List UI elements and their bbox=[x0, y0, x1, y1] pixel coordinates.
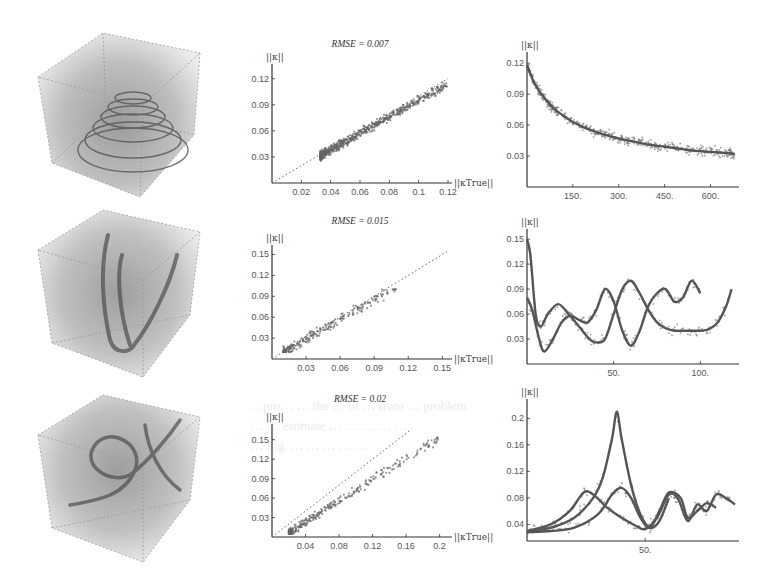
x-tick-label: 0.03 bbox=[297, 363, 315, 373]
x-tick-label: 50. bbox=[639, 545, 652, 555]
y-tick-label: 0.12 bbox=[251, 454, 269, 464]
volume-render-tangled-curve bbox=[30, 205, 210, 385]
x-tick-label: 0.15 bbox=[434, 363, 452, 373]
y-tick-label: 0.06 bbox=[251, 493, 269, 503]
x-axis-label: ||κTrue|| bbox=[454, 178, 493, 189]
x-tick-label: 0.04 bbox=[297, 541, 315, 551]
line-plot-2: 50.100.0.030.060.090.120.15||κ|| bbox=[500, 195, 766, 385]
y-axis-label: ||κ|| bbox=[521, 217, 539, 228]
sample-points bbox=[533, 487, 730, 532]
chart-title: RMSE = 0.007 bbox=[331, 39, 390, 49]
x-tick-label: 0.16 bbox=[397, 541, 415, 551]
scatter-points bbox=[320, 81, 448, 161]
y-tick-label: 0.15 bbox=[251, 435, 269, 445]
y-tick-label: 0.09 bbox=[251, 291, 269, 301]
y-tick-label: 0.03 bbox=[251, 513, 269, 523]
x-tick-label: 0.08 bbox=[330, 541, 348, 551]
y-tick-label: 0.12 bbox=[251, 270, 269, 280]
y-axis-label: ||κ|| bbox=[521, 387, 539, 398]
scatter-points bbox=[288, 436, 439, 534]
y-tick-label: 0.15 bbox=[251, 249, 269, 259]
y-tick-label: 0.03 bbox=[251, 333, 269, 343]
scatter-plot-1: 0.020.040.060.080.10.120.030.060.090.12|… bbox=[230, 0, 500, 195]
y-tick-label: 0.08 bbox=[506, 493, 524, 503]
x-tick-label: 0.06 bbox=[331, 363, 349, 373]
x-axis-label: ||κTrue|| bbox=[454, 354, 493, 365]
volume-render-knotted-curve bbox=[30, 390, 210, 570]
y-tick-label: 0.09 bbox=[506, 284, 524, 294]
chart-svg: 0.020.040.060.080.10.120.030.060.090.12|… bbox=[230, 0, 500, 195]
y-tick-label: 0.06 bbox=[506, 120, 524, 130]
y-tick-label: 0.09 bbox=[251, 474, 269, 484]
chart-svg: 0.040.080.120.160.20.030.060.090.120.15|… bbox=[230, 380, 500, 588]
line-plot-1: 150.300.450.600.0.030.060.090.12||κ|| bbox=[500, 0, 766, 195]
chart-svg: 50.100.0.030.060.090.120.15||κ|| bbox=[500, 195, 766, 385]
y-axis-label: ||κ|| bbox=[266, 233, 284, 244]
x-tick-label: 0.12 bbox=[364, 541, 382, 551]
chart-svg: 50.0.040.080.120.160.2||κ|| bbox=[500, 380, 766, 588]
x-tick-label: 100. bbox=[692, 368, 710, 378]
y-tick-label: 0.03 bbox=[506, 151, 524, 161]
y-tick-label: 0.12 bbox=[506, 466, 524, 476]
chart-title: RMSE = 0.015 bbox=[331, 216, 389, 226]
y-axis-label: ||κ|| bbox=[266, 52, 284, 63]
volume-render-helix-cone bbox=[30, 25, 210, 205]
line-plot-3: 50.0.040.080.120.160.2||κ|| bbox=[500, 380, 766, 588]
y-tick-label: 0.03 bbox=[506, 334, 524, 344]
y-tick-label: 0.03 bbox=[251, 152, 269, 162]
chart-svg: 0.030.060.090.120.150.030.060.090.120.15… bbox=[230, 195, 500, 385]
y-tick-label: 0.04 bbox=[506, 519, 524, 529]
y-axis-label: ||κ|| bbox=[266, 412, 284, 423]
y-tick-label: 0.12 bbox=[506, 259, 524, 269]
chart-svg: 150.300.450.600.0.030.060.090.12||κ|| bbox=[500, 0, 766, 195]
sample-points bbox=[530, 415, 669, 533]
y-tick-label: 0.16 bbox=[506, 440, 524, 450]
x-tick-label: 0.09 bbox=[365, 363, 383, 373]
x-axis-label: ||κTrue|| bbox=[454, 532, 493, 543]
y-axis-label: ||κ|| bbox=[521, 40, 539, 51]
scatter-points bbox=[282, 288, 396, 353]
y-tick-label: 0.12 bbox=[506, 58, 524, 68]
scatter-plot-3: 0.040.080.120.160.20.030.060.090.120.15|… bbox=[230, 380, 500, 588]
curve-fit bbox=[527, 65, 735, 154]
x-tick-label: 0.2 bbox=[433, 541, 446, 551]
y-tick-label: 0.12 bbox=[251, 74, 269, 84]
y-tick-label: 0.06 bbox=[251, 312, 269, 322]
y-tick-label: 0.2 bbox=[511, 413, 524, 423]
chart-title: RMSE = 0.02 bbox=[333, 394, 386, 404]
x-tick-label: 50. bbox=[607, 368, 620, 378]
scatter-plot-2: 0.030.060.090.120.150.030.060.090.120.15… bbox=[230, 195, 500, 385]
y-tick-label: 0.15 bbox=[506, 234, 524, 244]
x-tick-label: 0.12 bbox=[399, 363, 417, 373]
y-tick-label: 0.09 bbox=[506, 89, 524, 99]
y-tick-label: 0.09 bbox=[251, 100, 269, 110]
y-tick-label: 0.06 bbox=[506, 309, 524, 319]
identity-line bbox=[272, 430, 410, 537]
y-tick-label: 0.06 bbox=[251, 126, 269, 136]
